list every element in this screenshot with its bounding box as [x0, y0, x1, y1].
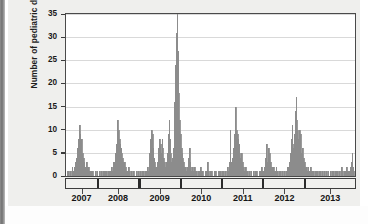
x-axis-band-divider — [138, 179, 140, 188]
scanned-page-background: Number of pediatric deaths 0510152025303… — [0, 0, 368, 224]
x-tick-label: 2009 — [140, 193, 180, 203]
chart-bar — [353, 171, 355, 176]
figure-panel: Number of pediatric deaths 0510152025303… — [8, 0, 360, 206]
y-tick-label: 15 — [39, 102, 57, 111]
page-gutter-shadow — [0, 0, 5, 224]
x-axis-band-divider — [262, 179, 264, 188]
x-tick-label: 2008 — [98, 193, 138, 203]
y-tick-label: 5 — [39, 148, 57, 157]
y-tick-mark — [61, 152, 65, 153]
y-tick-label: 0 — [39, 171, 57, 180]
y-tick-mark — [61, 106, 65, 107]
y-tick-mark — [61, 83, 65, 84]
y-tick-label: 20 — [39, 78, 57, 87]
x-axis-band-divider — [221, 179, 223, 188]
x-axis-band-divider — [97, 179, 99, 188]
x-tick-label: 2011 — [223, 193, 263, 203]
y-tick-mark — [61, 37, 65, 38]
y-tick-label: 10 — [39, 125, 57, 134]
y-tick-label: 30 — [39, 32, 57, 41]
y-tick-label: 25 — [39, 55, 57, 64]
x-tick-label: 2007 — [62, 193, 102, 203]
x-axis-band-divider — [304, 179, 306, 188]
x-axis-year-band — [65, 178, 356, 189]
x-tick-label: 2010 — [181, 193, 221, 203]
y-tick-mark — [61, 60, 65, 61]
x-tick-label: 2012 — [264, 193, 304, 203]
y-axis-title: Number of pediatric deaths — [29, 0, 39, 103]
y-tick-mark — [61, 129, 65, 130]
x-tick-label: 2013 — [310, 193, 350, 203]
x-axis-band-divider — [180, 179, 182, 188]
page-bottom-margin — [5, 206, 368, 224]
y-tick-label: 35 — [39, 9, 57, 18]
y-tick-mark — [61, 14, 65, 15]
y-tick-mark — [61, 176, 65, 177]
chart-plot-area — [66, 14, 355, 176]
